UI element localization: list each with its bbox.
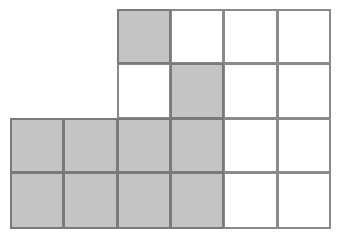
shaded-cell-r3-c2 — [117, 172, 171, 229]
unshaded-cell-r1-c2 — [117, 63, 171, 119]
shaded-cell-r3-c3 — [170, 172, 224, 229]
shaded-cell-r2-c0 — [10, 118, 64, 173]
unshaded-cell-r2-c5 — [277, 118, 331, 173]
shaded-grid-diagram — [0, 0, 337, 239]
unshaded-cell-r0-c5 — [277, 9, 331, 64]
shaded-cell-r2-c3 — [170, 118, 224, 173]
shaded-cell-r3-c0 — [10, 172, 64, 229]
unshaded-cell-r1-c4 — [223, 63, 278, 119]
unshaded-cell-r2-c4 — [223, 118, 278, 173]
unshaded-cell-r1-c5 — [277, 63, 331, 119]
unshaded-cell-r0-c4 — [223, 9, 278, 64]
unshaded-cell-r3-c5 — [277, 172, 331, 229]
shaded-cell-r2-c1 — [63, 118, 118, 173]
unshaded-cell-r3-c4 — [223, 172, 278, 229]
shaded-cell-r2-c2 — [117, 118, 171, 173]
shaded-cell-r3-c1 — [63, 172, 118, 229]
shaded-cell-r0-c2 — [117, 9, 171, 64]
shaded-cell-r1-c3 — [170, 63, 224, 119]
unshaded-cell-r0-c3 — [170, 9, 224, 64]
